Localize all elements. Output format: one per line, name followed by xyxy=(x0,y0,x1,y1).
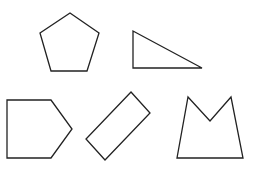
shapes-diagram xyxy=(0,0,264,173)
house-pentagon-shape xyxy=(7,100,72,158)
diagram-svg xyxy=(0,0,264,173)
right-triangle-shape xyxy=(133,31,202,68)
pentagon-shape xyxy=(40,13,99,71)
tilted-rectangle-shape xyxy=(86,92,150,160)
m-shape-polygon xyxy=(177,97,243,158)
